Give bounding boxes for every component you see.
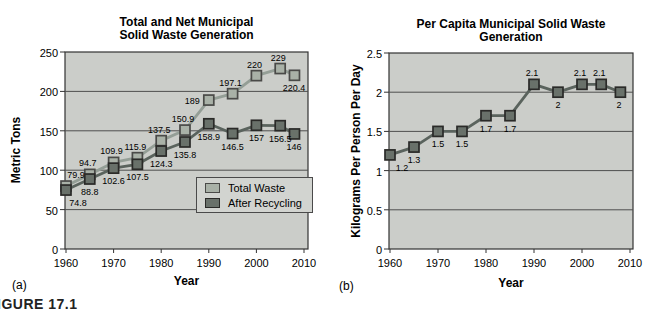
data-point-marker <box>275 121 285 131</box>
x-tick-label: 1990 <box>522 257 546 269</box>
data-point-label: 2.1 <box>593 68 606 78</box>
x-tick-label: 1980 <box>474 257 498 269</box>
data-point-label: 1.3 <box>408 155 421 165</box>
chart-b-x-axis-label: Year <box>389 276 633 290</box>
data-point-marker <box>596 79 606 89</box>
x-tick-label: 1970 <box>101 257 125 269</box>
legend-label-total: Total Waste <box>228 182 285 194</box>
y-tick-label: 0 <box>376 244 382 256</box>
data-point-marker <box>228 89 238 99</box>
y-tick-label: 1.5 <box>367 126 382 138</box>
data-point-label: 79.9 <box>67 170 85 180</box>
data-point-label: 1.7 <box>504 124 517 134</box>
chart-b-plot: 00.511.522.51960197019801990200020101.21… <box>367 48 643 269</box>
x-tick-label: 1960 <box>378 257 402 269</box>
data-point-marker <box>156 136 166 146</box>
data-point-marker <box>553 87 563 97</box>
data-point-marker <box>156 146 166 156</box>
data-point-label: 197.1 <box>219 78 242 88</box>
data-point-label: 158.9 <box>198 132 221 142</box>
data-point-label: 150.9 <box>172 114 195 124</box>
data-point-label: 74.8 <box>69 198 87 208</box>
data-point-label: 220 <box>247 60 262 70</box>
x-tick-label: 2000 <box>244 257 268 269</box>
data-point-marker <box>204 95 214 105</box>
data-point-label: 157 <box>249 133 264 143</box>
x-tick-label: 1980 <box>149 257 173 269</box>
x-tick-label: 1970 <box>426 257 450 269</box>
data-point-marker <box>615 87 625 97</box>
data-point-marker <box>409 142 419 152</box>
data-point-label: 115.9 <box>124 142 146 152</box>
y-tick-label: 100 <box>40 165 58 177</box>
chart-a-x-axis-label: Year <box>65 274 308 288</box>
data-point-marker <box>251 120 261 130</box>
data-point-label: 146.5 <box>221 142 244 152</box>
y-tick-label: 2 <box>376 87 382 99</box>
legend-label-after: After Recycling <box>228 197 302 209</box>
data-point-label: 2.1 <box>526 68 539 78</box>
data-point-marker <box>505 111 515 121</box>
chart-b-y-axis-label: Kilograms Per Person Per Day <box>349 51 365 251</box>
chart-a-title: Total and Net Municipal Solid Waste Gene… <box>65 16 308 42</box>
data-point-marker <box>481 111 491 121</box>
data-point-label: 88.8 <box>81 187 99 197</box>
data-point-marker <box>109 163 119 173</box>
data-point-label: 2.1 <box>574 68 587 78</box>
data-point-label: 94.7 <box>79 158 97 168</box>
data-point-marker <box>228 129 238 139</box>
data-point-label: 107.5 <box>126 172 149 182</box>
x-tick-label: 1990 <box>197 257 221 269</box>
data-point-marker <box>289 70 299 80</box>
total-waste-swatch <box>205 183 220 193</box>
chart-a-y-axis-label: Metric Tons <box>9 50 25 250</box>
panel-label-b: (b) <box>339 279 354 293</box>
data-point-marker <box>180 125 190 135</box>
data-point-label: 109.9 <box>100 146 123 156</box>
data-point-label: 1.2 <box>396 163 409 173</box>
y-tick-label: 150 <box>40 126 58 138</box>
data-point-label: 1.7 <box>480 124 493 134</box>
data-point-marker <box>204 119 214 129</box>
data-point-label: 146 <box>286 142 301 152</box>
data-point-marker <box>457 126 467 136</box>
x-tick-label: 1960 <box>54 257 78 269</box>
legend-row-after: After Recycling <box>205 197 312 209</box>
data-point-marker <box>85 174 95 184</box>
y-tick-label: 250 <box>40 47 58 59</box>
y-tick-label: 0.5 <box>367 205 382 217</box>
after-recycling-swatch <box>205 198 220 208</box>
chart-a-legend: Total Waste After Recycling <box>196 177 313 213</box>
x-tick-label: 2010 <box>292 257 316 269</box>
data-point-label: 137.5 <box>148 125 171 135</box>
data-point-label: 102.6 <box>102 176 125 186</box>
data-point-marker <box>275 64 285 74</box>
data-point-label: 124.3 <box>150 159 173 169</box>
data-point-marker <box>132 159 142 169</box>
y-tick-label: 1 <box>376 166 382 178</box>
data-point-label: 2 <box>616 100 621 110</box>
data-point-label: 1.5 <box>432 139 445 149</box>
y-tick-label: 2.5 <box>367 48 382 60</box>
data-point-label: 2 <box>555 100 560 110</box>
chart-a-title-line2: Solid Waste Generation <box>65 29 308 42</box>
panel-label-a: (a) <box>12 278 27 292</box>
y-tick-label: 200 <box>40 86 58 98</box>
data-point-label: 229 <box>271 53 286 63</box>
data-point-marker <box>251 71 261 81</box>
chart-a-plot: 0501001502002501960197019801990200020107… <box>40 47 317 269</box>
data-point-label: 189 <box>185 96 200 106</box>
figure-caption: FIGURE 17.1 <box>0 296 78 312</box>
data-point-label: 1.5 <box>456 139 469 149</box>
data-point-label: 220.4 <box>283 83 306 93</box>
data-point-marker <box>529 79 539 89</box>
x-tick-label: 2010 <box>618 257 642 269</box>
data-point-marker <box>180 137 190 147</box>
y-tick-label: 50 <box>46 205 58 217</box>
legend-row-total: Total Waste <box>205 182 312 194</box>
data-point-marker <box>577 79 587 89</box>
chart-b-title: Per Capita Municipal Solid Waste Generat… <box>389 18 633 44</box>
data-point-marker <box>433 126 443 136</box>
